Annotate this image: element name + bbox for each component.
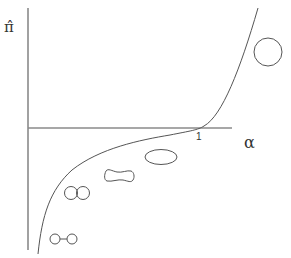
diagram-canvas bbox=[0, 0, 291, 258]
y-axis-label: π̂ bbox=[4, 18, 14, 36]
pi-alpha-curve bbox=[38, 8, 258, 254]
x-tick-label-1: 1 bbox=[196, 131, 202, 142]
ellipse-shape bbox=[145, 150, 177, 165]
touching-circle-right bbox=[77, 187, 90, 200]
connected-circle-right bbox=[67, 234, 77, 244]
connected-circle-left bbox=[50, 234, 60, 244]
peanut-shape bbox=[105, 170, 134, 182]
large-circle-shape bbox=[254, 38, 282, 66]
x-axis-label: α bbox=[244, 133, 255, 152]
touching-circle-left bbox=[65, 187, 78, 200]
